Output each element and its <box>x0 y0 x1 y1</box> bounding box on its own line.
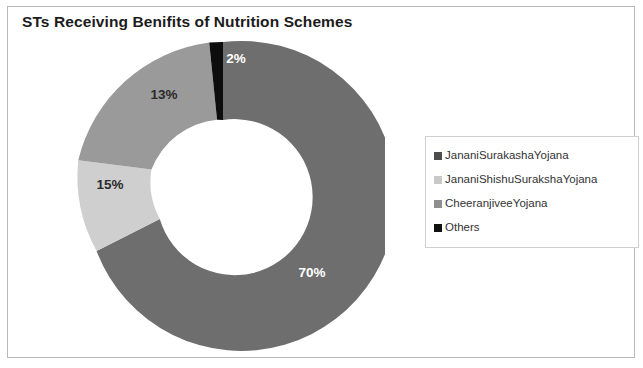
slice-value-label-others: 2% <box>226 51 246 66</box>
chart-frame: STs Receiving Benifits of Nutrition Sche… <box>7 6 635 358</box>
legend-item-label: Others <box>445 222 480 234</box>
legend-item-label: JananiShishuSurakshaYojana <box>445 174 597 186</box>
legend-swatch-icon <box>434 224 442 232</box>
donut-slice-cheeranjiveeyojana[interactable] <box>78 43 217 170</box>
legend-item-jananisurakashayojana[interactable]: JananiSurakashaYojana <box>434 144 632 168</box>
legend-item-others[interactable]: Others <box>434 216 632 240</box>
chart-title: STs Receiving Benifits of Nutrition Sche… <box>22 13 352 31</box>
legend-item-jananishishusurakshayojana[interactable]: JananiShishuSurakshaYojana <box>434 168 632 192</box>
legend-swatch-icon <box>434 152 442 160</box>
legend-item-cheeranjiveeyojana[interactable]: CheeranjiveeYojana <box>434 192 632 216</box>
slice-value-label-cheeranjiveeyojana: 13% <box>150 87 177 102</box>
chart-legend: JananiSurakashaYojana JananiShishuSuraks… <box>425 136 639 248</box>
donut-chart-plot-area: 70% 15% 13% 2% <box>63 37 385 355</box>
legend-swatch-icon <box>434 200 442 208</box>
legend-swatch-icon <box>434 176 442 184</box>
slice-value-label-jananisurakashayojana: 70% <box>298 265 325 280</box>
slice-value-label-jananishishusurakshayojana: 15% <box>96 177 123 192</box>
donut-chart-svg: 70% 15% 13% 2% <box>63 37 385 355</box>
legend-item-label: JananiSurakashaYojana <box>445 150 569 162</box>
legend-item-label: CheeranjiveeYojana <box>445 198 548 210</box>
